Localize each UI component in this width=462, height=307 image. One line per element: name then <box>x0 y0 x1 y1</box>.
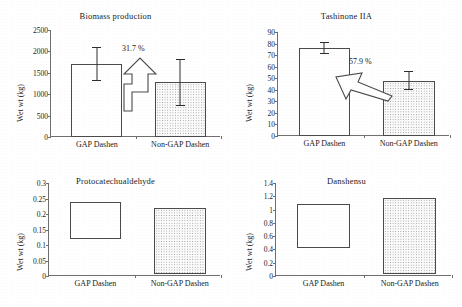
chart-protocatechualdehyde: Protocatechualdehyde Wet wt (kg) 00.050.… <box>0 155 231 307</box>
x-axis-category-label: Non-GAP Dashen <box>151 140 209 149</box>
figure-panel-grid: Biomass production Wet wt (kg) 050010001… <box>0 0 462 307</box>
bar-gap-dashen <box>70 202 122 239</box>
y-axis-tick-mark <box>275 67 278 68</box>
y-axis-tick-mark <box>46 199 49 200</box>
x-axis-tick-mark <box>450 135 451 138</box>
y-axis-tick-mark <box>273 196 276 197</box>
y-axis-tick-mark <box>46 245 49 246</box>
percent-annotation-label: 31.7 % <box>122 44 145 53</box>
bar-gap-dashen <box>297 204 350 249</box>
x-axis-category-label: Non-GAP Dashen <box>380 139 438 148</box>
y-axis-label: Wet wt (kg) <box>16 233 25 271</box>
error-bar <box>324 42 325 54</box>
diagonal-left-arrow-icon <box>334 68 394 102</box>
chart-biomass-production: Biomass production Wet wt (kg) 050010001… <box>0 0 231 155</box>
y-axis-tick-mark <box>275 90 278 91</box>
x-axis-tick-mark <box>221 275 222 278</box>
x-axis-tick-mark <box>136 136 137 139</box>
x-axis-tick-mark <box>221 136 222 139</box>
x-axis-category-label: GAP Dashen <box>75 279 117 288</box>
percent-annotation-label: 57.9 % <box>349 57 372 66</box>
bar-non-gap-dashen <box>154 208 206 273</box>
chart-tashinone-iia: Tashinone IIA Wet wt (kg) 01020304050607… <box>231 0 462 155</box>
y-axis-tick-mark <box>273 236 276 237</box>
y-axis-tick-mark <box>273 263 276 264</box>
x-axis-category-label: Non-GAP Dashen <box>151 279 209 288</box>
y-axis-tick-mark <box>273 183 276 184</box>
y-axis-label: Wet wt (kg) <box>16 84 25 122</box>
x-axis-tick-mark <box>364 275 365 278</box>
y-axis-tick-mark <box>275 32 278 33</box>
y-axis-tick-mark <box>48 51 51 52</box>
y-axis-tick-mark <box>48 137 51 138</box>
x-axis-category-label: GAP Dashen <box>303 279 345 288</box>
y-axis-label: Wet wt (kg) <box>245 233 254 271</box>
y-axis-tick-mark <box>273 249 276 250</box>
error-bar <box>180 59 181 106</box>
y-axis-tick-mark <box>48 73 51 74</box>
y-axis-tick-mark <box>275 101 278 102</box>
x-axis-category-label: GAP Dashen <box>304 139 346 148</box>
x-axis-tick-mark <box>135 275 136 278</box>
plot-area: 00.20.40.60.811.21.4GAP DashenNon-GAP Da… <box>275 183 451 276</box>
y-axis-tick-mark <box>46 261 49 262</box>
y-axis-tick-mark <box>275 124 278 125</box>
x-axis-tick-mark <box>364 135 365 138</box>
error-bar <box>408 71 409 89</box>
y-axis-tick-mark <box>275 44 278 45</box>
y-axis-tick-mark <box>46 230 49 231</box>
y-axis-tick-mark <box>273 276 276 277</box>
y-axis-tick-mark <box>273 210 276 211</box>
bent-up-arrow-icon <box>118 56 164 112</box>
y-axis-tick-mark <box>48 94 51 95</box>
y-axis-tick-mark <box>46 214 49 215</box>
y-axis-tick-mark <box>48 116 51 117</box>
bar-non-gap-dashen <box>383 198 436 274</box>
y-axis-tick-mark <box>275 136 278 137</box>
chart-title: Tashinone IIA <box>231 11 462 21</box>
y-axis-tick-mark <box>48 30 51 31</box>
y-axis-tick-mark <box>46 183 49 184</box>
x-axis-category-label: GAP Dashen <box>76 140 118 149</box>
chart-danshensu: Danshensu Wet wt (kg) 00.20.40.60.811.21… <box>231 155 462 307</box>
y-axis-label: Wet wt (kg) <box>245 84 254 122</box>
y-axis-tick-mark <box>273 223 276 224</box>
x-axis-tick-mark <box>452 275 453 278</box>
error-bar <box>96 47 97 81</box>
x-axis-category-label: Non-GAP Dashen <box>381 279 439 288</box>
y-axis-tick-mark <box>275 78 278 79</box>
chart-title: Biomass production <box>0 11 231 21</box>
y-axis-tick-mark <box>275 55 278 56</box>
y-axis-tick-mark <box>275 113 278 114</box>
y-axis-tick-mark <box>46 276 49 277</box>
plot-area: 00.050.10.150.20.250.3GAP DashenNon-GAP … <box>48 183 220 276</box>
